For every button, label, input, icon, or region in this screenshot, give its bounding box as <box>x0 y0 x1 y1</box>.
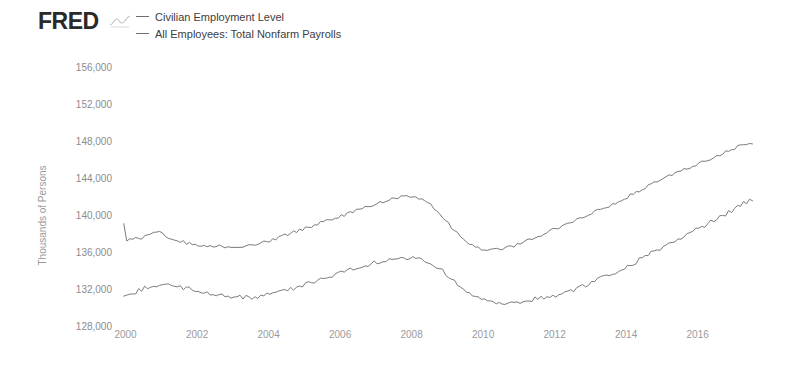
x-axis-tick-label: 2014 <box>603 329 649 340</box>
chart-series-line <box>124 143 753 250</box>
chart-plot-area: Thousands of Persons 156,000152,000148,0… <box>0 0 796 374</box>
y-axis-tick-label: 136,000 <box>60 247 112 258</box>
fred-chart-page: FRED Civilian Employment Level All Emplo… <box>0 0 796 374</box>
y-axis-tick-label: 152,000 <box>60 99 112 110</box>
x-axis-tick-label: 2010 <box>460 329 506 340</box>
y-axis-title: Thousands of Persons <box>37 156 48 276</box>
chart-series-line <box>124 199 753 304</box>
x-axis-tick-label: 2006 <box>317 329 363 340</box>
x-axis-tick-label: 2012 <box>532 329 578 340</box>
x-axis-tick-label: 2002 <box>174 329 220 340</box>
x-axis-tick-label: 2000 <box>103 329 149 340</box>
y-axis-tick-label: 156,000 <box>60 62 112 73</box>
chart-lines-svg <box>0 0 796 374</box>
x-axis-tick-label: 2016 <box>675 329 721 340</box>
x-axis-tick-label: 2008 <box>389 329 435 340</box>
y-axis-tick-label: 140,000 <box>60 210 112 221</box>
y-axis-tick-label: 144,000 <box>60 173 112 184</box>
x-axis-tick-label: 2004 <box>246 329 292 340</box>
y-axis-tick-label: 132,000 <box>60 284 112 295</box>
y-axis-tick-label: 148,000 <box>60 136 112 147</box>
